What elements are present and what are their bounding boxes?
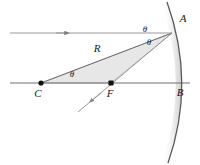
mirror-geometry-figure: A B C F R θ θ θ [0, 0, 200, 165]
reflected-ray-arrow-icon [91, 93, 101, 101]
optics-diagram-canvas: A B C F R θ θ θ [0, 0, 200, 165]
label-F: F [106, 87, 114, 99]
label-theta-center: θ [70, 69, 75, 79]
label-theta-reflected: θ [147, 37, 152, 47]
point-C-marker [38, 80, 43, 85]
label-theta-incident: θ [143, 24, 148, 34]
label-R: R [93, 42, 101, 54]
label-A: A [179, 12, 187, 24]
point-F-marker [108, 80, 113, 85]
label-B: B [177, 86, 184, 98]
label-C: C [34, 87, 42, 99]
